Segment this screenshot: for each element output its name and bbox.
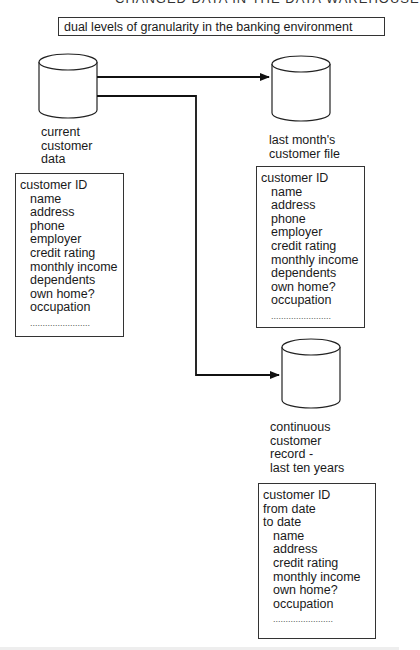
field: own home? (261, 281, 360, 295)
record-continuous-customer-record: customer ID from date to date name addre… (258, 483, 376, 639)
field-key: to date (263, 516, 371, 530)
field: address (20, 206, 119, 220)
field: credit rating (263, 557, 371, 571)
database-icon-current (39, 54, 97, 118)
field: phone (261, 213, 360, 227)
field: dependents (20, 274, 119, 288)
field: name (263, 530, 371, 544)
label-continuous-customer-record: continuous customer record - last ten ye… (270, 421, 344, 475)
ellipsis: ........................ (261, 308, 360, 324)
record-last-month-customer-file: customer ID name address phone employer … (256, 166, 365, 328)
database-icon-last-month (272, 56, 330, 121)
field: dependents (261, 267, 360, 281)
label-last-month-customer-file: last month's customer file (269, 134, 340, 161)
field: own home? (20, 288, 119, 302)
field-key: from date (263, 503, 371, 517)
field: occupation (261, 294, 360, 308)
field: credit rating (20, 247, 119, 261)
field: address (261, 199, 360, 213)
field: monthly income (263, 571, 371, 585)
field: monthly income (261, 254, 360, 268)
field: monthly income (20, 261, 119, 275)
field: employer (261, 226, 360, 240)
field: occupation (263, 598, 371, 612)
field: name (261, 186, 360, 200)
field: occupation (20, 301, 119, 315)
field: name (20, 193, 119, 207)
database-icon-continuous (282, 339, 340, 408)
field: own home? (263, 584, 371, 598)
field-key: customer ID (263, 489, 371, 503)
record-current-customer-data: customer ID name address phone employer … (15, 173, 124, 337)
field: employer (20, 233, 119, 247)
ellipsis: ........................ (20, 315, 119, 331)
label-current-customer-data: current customer data (41, 126, 92, 167)
field: phone (20, 220, 119, 234)
arrow-to-continuous (97, 96, 279, 375)
field-key: customer ID (20, 179, 119, 193)
field-key: customer ID (261, 172, 360, 186)
field: credit rating (261, 240, 360, 254)
ellipsis: ........................ (263, 611, 371, 627)
field: address (263, 543, 371, 557)
